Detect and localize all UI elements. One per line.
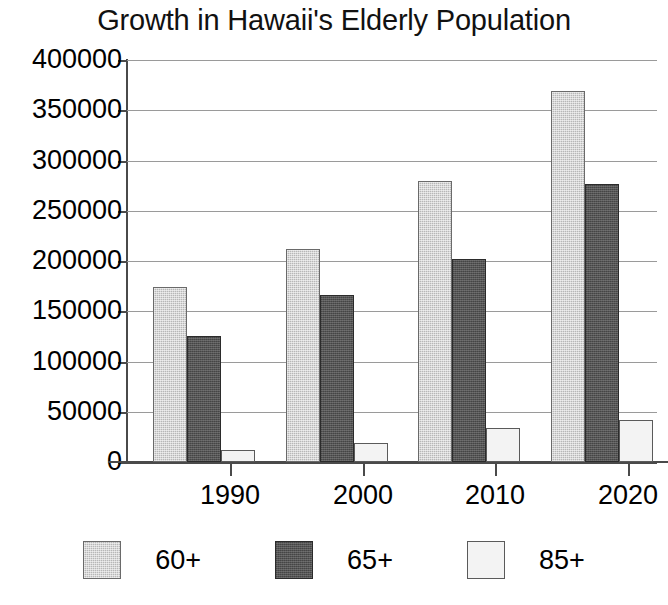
bar-1990-85+[interactable]	[221, 450, 255, 462]
x-tick-mark	[495, 462, 497, 476]
bar-group	[153, 60, 255, 462]
bar-2010-85+[interactable]	[486, 428, 520, 462]
gridline	[127, 462, 657, 464]
bar-2000-85+[interactable]	[354, 443, 388, 462]
legend-label: 85+	[539, 547, 585, 574]
x-tick-mark	[628, 462, 630, 476]
legend-entry-65+[interactable]: 65+	[275, 541, 393, 579]
bar-group	[418, 60, 520, 462]
bar-2020-85+[interactable]	[619, 420, 653, 462]
bar-2020-60+[interactable]	[551, 91, 585, 462]
plot-area	[127, 60, 657, 462]
x-tick-mark	[230, 462, 232, 476]
legend-entry-60+[interactable]: 60+	[83, 541, 201, 579]
bar-2010-65+[interactable]	[452, 259, 486, 462]
legend-entry-85+[interactable]: 85+	[467, 541, 585, 579]
x-tick-label-1990: 1990	[170, 480, 290, 510]
y-tick-label: 200000	[6, 247, 122, 274]
bar-group	[286, 60, 388, 462]
x-tick-label-2000: 2000	[303, 480, 423, 510]
x-tick-mark	[363, 462, 365, 476]
legend-swatch-icon	[467, 541, 505, 579]
bar-2000-60+[interactable]	[286, 249, 320, 462]
y-tick-label: 250000	[6, 197, 122, 224]
x-tick-label-2020: 2020	[568, 480, 668, 510]
legend-label: 65+	[347, 547, 393, 574]
bar-1990-60+[interactable]	[153, 287, 187, 462]
y-tick-label: 300000	[6, 147, 122, 174]
bar-1990-65+[interactable]	[187, 336, 221, 462]
legend-swatch-icon	[275, 541, 313, 579]
bar-2000-65+[interactable]	[320, 295, 354, 462]
legend-swatch-icon	[83, 541, 121, 579]
y-tick-label: 100000	[6, 348, 122, 375]
bar-2010-60+[interactable]	[418, 181, 452, 462]
x-tick-label-2010: 2010	[435, 480, 555, 510]
chart-figure: Growth in Hawaii's Elderly Population 40…	[0, 0, 668, 605]
y-tick-label: 400000	[6, 46, 122, 73]
bar-2020-65+[interactable]	[585, 184, 619, 462]
bar-group	[551, 60, 653, 462]
y-tick-label: 0	[6, 448, 122, 475]
y-axis-tick-labels: 4000003500003000002500002000001500001000…	[0, 0, 122, 605]
y-tick-label: 50000	[6, 398, 122, 425]
y-tick-label: 350000	[6, 96, 122, 123]
chart-legend: 60+65+85+	[0, 532, 668, 588]
legend-label: 60+	[155, 547, 201, 574]
y-tick-label: 150000	[6, 297, 122, 324]
